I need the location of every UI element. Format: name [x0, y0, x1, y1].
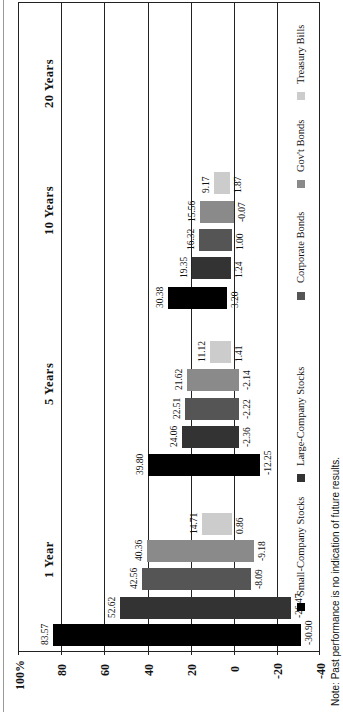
gridline-80: [61, 2, 62, 652]
bar-large-company-g2: [192, 257, 231, 279]
bar-govt-bonds-g2: [200, 201, 234, 223]
gridline-minus20: [277, 2, 278, 652]
legend-swatch-large-company: [297, 474, 305, 482]
bar-high-label: 14.71: [189, 513, 199, 534]
bar-high-label: 22.51: [172, 398, 182, 419]
axis-tick-20: 20: [185, 664, 200, 676]
bar-low-label: -2.22: [242, 399, 252, 419]
legend-swatch-corporate-bonds: [297, 292, 305, 300]
gridline-60: [104, 2, 105, 652]
axis-tick-minus40: -40: [314, 663, 329, 679]
legend-swatch-treasury-bills: [297, 92, 305, 100]
bar-high-label: 24.06: [169, 426, 179, 447]
bar-corporate-bonds-g2: [199, 229, 232, 251]
tick-mark: [277, 650, 278, 655]
legend-label-corporate-bonds: Corporate Bonds: [295, 212, 306, 283]
bar-high-label: 16.32: [186, 229, 196, 250]
tick-mark: [234, 650, 235, 655]
bar-high-label: 30.38: [155, 287, 165, 308]
bar-high-label: 11.12: [197, 341, 207, 362]
group-label-20-years: 20 Years: [42, 59, 57, 108]
bar-low-label: 1.00: [235, 233, 245, 250]
bar-low-label: -9.18: [257, 541, 267, 561]
bar-high-label: 52.62: [107, 597, 117, 618]
bar-small-company-g2: [168, 287, 227, 309]
footnote: Note: Past performance is no indication …: [330, 457, 341, 706]
axis-tick-60: 60: [98, 664, 113, 676]
tick-mark: [18, 650, 19, 655]
bar-corporate-bonds-g0: [142, 568, 251, 590]
group-label-1-year: 1 Year: [42, 541, 57, 578]
bar-high-label: 9.17: [201, 176, 211, 193]
axis-tick-100: 100%: [13, 660, 28, 690]
bar-treasury-bills-g2: [214, 172, 230, 194]
bar-low-label: -8.09: [254, 569, 264, 589]
tick-mark: [148, 650, 149, 655]
bar-low-label: 3.20: [230, 291, 240, 308]
bar-treasury-bills-g1: [210, 341, 231, 363]
bar-high-label: 39.80: [135, 454, 145, 475]
axis-tick-40: 40: [142, 664, 157, 676]
bar-low-label: -2.14: [242, 370, 252, 390]
bar-small-company-g0: [53, 624, 300, 646]
bar-low-label: -30.90: [304, 620, 314, 645]
bar-low-label: -0.07: [237, 202, 247, 222]
group-label-10-years: 10 Years: [42, 186, 57, 235]
bar-large-company-g1: [182, 426, 239, 448]
bar-govt-bonds-g0: [147, 540, 254, 562]
bar-high-label: 21.62: [174, 369, 184, 390]
bar-small-company-g1: [148, 454, 260, 476]
bar-large-company-g0: [120, 597, 291, 619]
bar-high-label: 42.56: [129, 568, 139, 589]
bar-corporate-bonds-g1: [185, 398, 238, 420]
axis-tick-minus20: -20: [271, 663, 286, 679]
legend-label-treasury-bills: Treasury Bills: [295, 25, 306, 84]
page-edge: [3, 0, 4, 712]
bar-low-label: -12.25: [263, 450, 273, 475]
bar-high-label: 83.57: [40, 624, 50, 645]
bar-low-label: 1.87: [233, 176, 243, 193]
legend-label-small-company: Small-Company Stocks: [295, 497, 306, 596]
tick-mark: [319, 650, 320, 655]
bar-treasury-bills-g0: [202, 513, 232, 535]
bar-low-label: -2.36: [242, 427, 252, 447]
bar-low-label: 0.86: [235, 517, 245, 534]
tick-mark: [104, 650, 105, 655]
bar-high-label: 40.36: [134, 540, 144, 561]
legend-swatch-small-company: [297, 603, 305, 611]
bar-low-label: 1.41: [234, 345, 244, 362]
axis-tick-0: 0: [228, 666, 243, 672]
tick-mark: [191, 650, 192, 655]
legend-label-govt-bonds: Gov't Bonds: [295, 120, 306, 172]
group-label-5-years: 5 Years: [42, 363, 57, 405]
bar-high-label: 19.35: [179, 257, 189, 278]
bar-low-label: 1.24: [234, 261, 244, 278]
legend-swatch-govt-bonds: [297, 180, 305, 188]
bar-govt-bonds-g1: [187, 369, 238, 391]
tick-mark: [61, 650, 62, 655]
bar-high-label: 15.56: [187, 201, 197, 222]
axis-tick-80: 80: [55, 664, 70, 676]
legend-label-large-company: Large-Company Stocks: [295, 367, 306, 466]
